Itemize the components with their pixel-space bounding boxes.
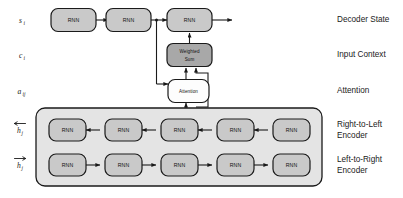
weighted-sum-label-line2: Sum <box>185 57 195 62</box>
weighted-sum-box <box>167 44 212 67</box>
decoder-rnn-node-2-label: RNN <box>123 17 135 23</box>
ltr-rnn-node-2: RNN <box>105 154 142 176</box>
ltr-rnn-node-4-label: RNN <box>230 162 242 168</box>
symbol-right-to-left-hidden-state: h j <box>14 122 25 136</box>
ltr-rnn-node-3: RNN <box>161 154 198 176</box>
rtl-rnn-node-2: RNN <box>105 119 142 141</box>
rtl-rnn-node-4-label: RNN <box>230 127 242 133</box>
label-right-to-left-encoder-line1: Right-to-Left <box>337 120 383 129</box>
rtl-rnn-node-3-label: RNN <box>174 127 186 133</box>
ltr-rnn-node-1: RNN <box>49 154 86 176</box>
symbol-attention-subscript: ij <box>22 91 25 97</box>
rtl-rnn-node-1-label: RNN <box>62 127 74 133</box>
ltr-rnn-node-5-label: RNN <box>286 162 298 168</box>
weighted-sum-label-line1: Weighted <box>179 49 199 54</box>
symbol-decoder-state-base: s <box>19 16 22 25</box>
label-left-to-right-encoder-line2: Encoder <box>337 166 368 175</box>
rtl-rnn-node-5-label: RNN <box>286 127 298 133</box>
label-attention: Attention <box>337 86 370 95</box>
label-right-to-left-encoder-line2: Encoder <box>337 131 368 140</box>
symbol-input-context-base: c <box>19 51 23 60</box>
symbol-rtl-hidden-base: h <box>17 126 21 135</box>
rtl-rnn-node-5: RNN <box>273 119 310 141</box>
rtl-rnn-node-2-label: RNN <box>118 127 130 133</box>
rtl-rnn-node-4: RNN <box>217 119 254 141</box>
symbol-ltr-hidden-base: h <box>17 161 21 170</box>
symbol-attention-base: a <box>18 87 22 96</box>
decoder-rnn-node-1-label: RNN <box>68 17 80 23</box>
decoder-rnn-node-3: RNN <box>167 9 212 32</box>
symbol-rtl-hidden-subscript: j <box>21 130 24 136</box>
symbol-decoder-state: s i <box>19 16 26 26</box>
symbol-input-context-subscript: i <box>24 55 26 61</box>
symbol-left-to-right-hidden-state: h j <box>15 157 26 171</box>
attention-architecture-diagram: RNN RNN RNN Weighted Sum <box>0 0 403 198</box>
attention-label: Attention <box>179 89 198 94</box>
ltr-rnn-node-5: RNN <box>273 154 310 176</box>
ltr-rnn-node-1-label: RNN <box>62 162 74 168</box>
ltr-rnn-node-3-label: RNN <box>174 162 186 168</box>
right-arrow-overbar-icon <box>15 157 26 160</box>
decoder-rnn-node-3-label: RNN <box>184 17 196 23</box>
symbol-input-context: c i <box>19 51 26 61</box>
decoder-rnn-node-1: RNN <box>51 9 96 32</box>
decoder-rnn-node-2: RNN <box>106 9 151 32</box>
ltr-rnn-node-2-label: RNN <box>118 162 130 168</box>
ltr-rnn-node-4: RNN <box>217 154 254 176</box>
label-decoder-state: Decoder State <box>337 15 390 24</box>
left-arrow-overbar-icon <box>14 122 25 125</box>
symbol-attention: a ij <box>18 87 26 97</box>
symbol-decoder-state-subscript: i <box>24 20 26 26</box>
right-side-labels: Decoder State Input Context Attention Ri… <box>337 15 390 175</box>
left-row-symbols: s i c i a ij h j h j <box>14 16 26 172</box>
rtl-rnn-node-3: RNN <box>161 119 198 141</box>
attention-node: Attention <box>168 68 209 108</box>
label-left-to-right-encoder-line1: Left-to-Right <box>337 155 383 164</box>
weighted-sum-node: Weighted Sum <box>167 33 212 67</box>
label-input-context: Input Context <box>337 50 386 59</box>
symbol-ltr-hidden-subscript: j <box>21 165 24 171</box>
rtl-rnn-node-1: RNN <box>49 119 86 141</box>
